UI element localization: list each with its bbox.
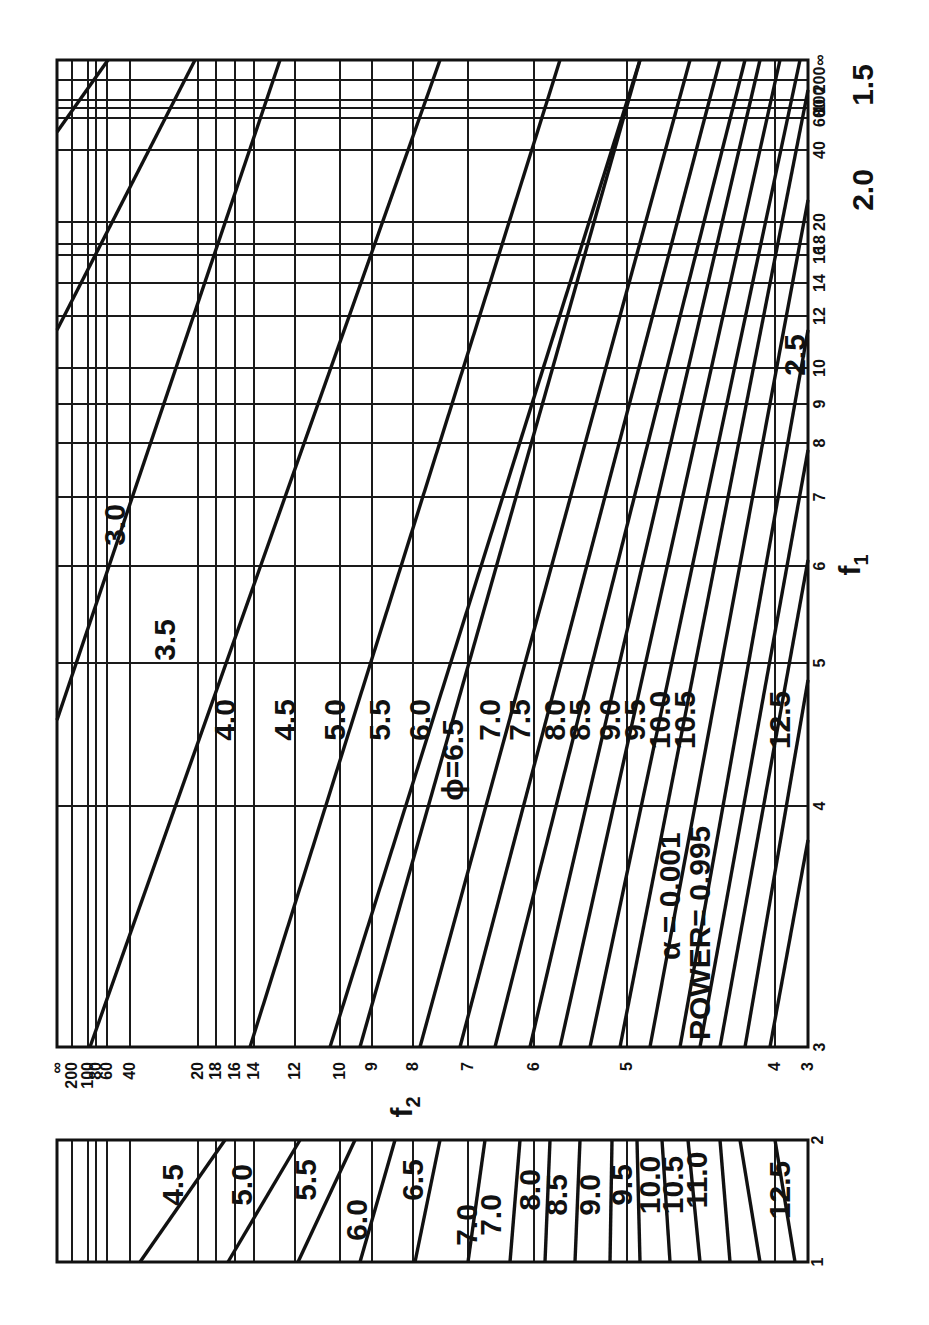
f2-tick-label: 10: [331, 1062, 348, 1080]
f2-tick-label: 14: [245, 1062, 262, 1080]
phi-label: 1.5: [846, 64, 879, 106]
inset-f1-tick: 1: [809, 1257, 826, 1266]
inset-phi-label: 5.0: [225, 1164, 258, 1206]
f2-axis-title: f2: [385, 1096, 424, 1117]
f2-tick-label: 60: [98, 1062, 115, 1080]
f1-tick-label: 7: [811, 492, 828, 501]
f1-tick-label: 14: [811, 274, 828, 292]
f1-tick-label: ∞: [811, 54, 828, 65]
phi-label: 4.0: [208, 699, 241, 741]
f1-tick-label: 8: [811, 438, 828, 447]
f2-tick-label: 16: [226, 1062, 243, 1080]
f2-tick-label: 20: [189, 1062, 206, 1080]
power-label: POWER= 0.995: [683, 826, 716, 1040]
phi-label: 3.5: [148, 619, 181, 661]
f2-tick-label: 5: [618, 1062, 635, 1071]
phi-label: 7.5: [503, 699, 536, 741]
f1-tick-label: 18: [811, 235, 828, 253]
f1-tick-label: 4: [811, 801, 828, 810]
chart-labels: 3456789101214161820406080100200∞∞2001008…: [48, 54, 879, 1266]
inset-phi-label: 4.5: [156, 1164, 189, 1206]
inset-phi-label: 6.5: [396, 1159, 429, 1201]
f2-tick-label: 6: [525, 1062, 542, 1071]
f1-tick-label: 6: [811, 561, 828, 570]
phi-label: 7.0: [473, 699, 506, 741]
phi-label: 4.5: [268, 699, 301, 741]
power-chart: 3456789101214161820406080100200∞∞2001008…: [0, 0, 929, 1325]
phi-label: 12.5: [763, 691, 796, 749]
inset-f1-tick: 2: [809, 1135, 826, 1144]
inset-phi-label: 9.0: [573, 1174, 606, 1216]
phi-label: 2.5: [778, 334, 811, 376]
inset-phi-label: 6.0: [340, 1199, 373, 1241]
phi-label: 6.0: [403, 699, 436, 741]
f2-tick-label: 4: [766, 1062, 783, 1071]
phi-label: 8.5: [563, 699, 596, 741]
f2-tick-label: 7: [459, 1062, 476, 1071]
inset-phi-label: 11.0: [680, 1152, 713, 1209]
f1-tick-label: 5: [811, 658, 828, 667]
f1-tick-label: 20: [811, 213, 828, 231]
f1-tick-label: 12: [811, 307, 828, 325]
f2-tick-label: 200: [63, 1062, 80, 1089]
f1-axis-title: f1: [833, 554, 872, 575]
phi-label: 5.0: [318, 699, 351, 741]
phi-label: 10.5: [668, 691, 701, 749]
f2-tick-label: 18: [207, 1062, 224, 1080]
phi-curve: [250, 60, 560, 1047]
phi-curve: [57, 60, 108, 132]
f1-tick-label: 40: [811, 141, 828, 159]
phi-label: ϕ=6.5: [436, 719, 469, 801]
f2-tick-label: 40: [121, 1062, 138, 1080]
inset-phi-label: 5.5: [289, 1159, 322, 1201]
f1-tick-label: 3: [811, 1042, 828, 1051]
inset-phi-label: 7.0: [474, 1194, 507, 1236]
inset-phi-label: 12.5: [763, 1161, 796, 1219]
f1-tick-label: 10: [811, 359, 828, 377]
f1-tick-label: 9: [811, 399, 828, 408]
f2-tick-label: 3: [799, 1062, 816, 1071]
inset-phi-curve: [740, 1140, 760, 1262]
alpha-label: α = 0.001: [653, 832, 686, 960]
f2-tick-label: 8: [404, 1062, 421, 1071]
inset-phi-curve: [720, 1140, 730, 1262]
phi-label: 2.0: [846, 169, 879, 211]
phi-curve: [90, 60, 440, 1047]
f2-tick-label: 12: [286, 1062, 303, 1080]
phi-label: 3.0: [98, 504, 131, 546]
phi-curve: [720, 560, 808, 1047]
inset-phi-label: 8.5: [540, 1174, 573, 1216]
f2-tick-label: 9: [363, 1062, 380, 1071]
phi-label: 5.5: [363, 699, 396, 741]
f1-tick-label: 200: [811, 67, 828, 94]
